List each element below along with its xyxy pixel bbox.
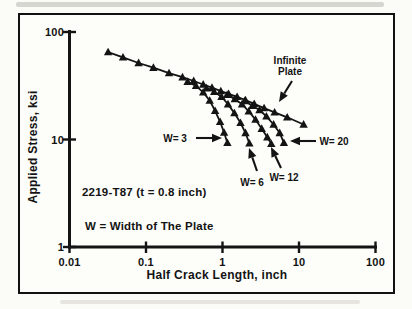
x-axis-title: Half Crack Length, inch [147, 268, 288, 282]
triangle-marker-w-6 [245, 139, 253, 147]
y-axis-title: Applied Stress, ksi [26, 90, 40, 203]
annotation-material-note: 2219-T87 (t = 0.8 inch) [82, 187, 206, 198]
annotation-w6: W= 6 [240, 177, 264, 188]
triangle-marker-w-3 [216, 117, 224, 125]
annotation-w20: W= 20 [319, 136, 348, 147]
arrow-line-w12 [275, 156, 281, 168]
triangle-marker-w-3 [223, 139, 231, 147]
triangle-marker-w-6 [241, 129, 249, 137]
triangle-marker-w-3 [211, 106, 219, 114]
triangle-marker-w-3 [220, 128, 228, 136]
x-tick-label-0_1: 0.1 [138, 256, 154, 268]
y-tick-label-10: 10 [51, 134, 64, 146]
x-tick-label-100: 100 [366, 256, 385, 268]
annotation-w3: W= 3 [163, 133, 187, 144]
arrow-head-icon-w6 [248, 148, 256, 159]
y-tick-label-1: 1 [58, 241, 64, 253]
arrow-line-w6 [252, 157, 257, 171]
scanned-figure: Applied Stress, ksi Half Crack Length, i… [0, 0, 412, 309]
arrow-line-infinite-plate [284, 81, 292, 93]
annotation-infinite-plate: InfinitePlate [274, 55, 307, 77]
x-tick-label-10: 10 [293, 256, 306, 268]
y-tick-label-100: 100 [45, 26, 64, 38]
triangle-marker-w-20 [280, 139, 288, 147]
x-tick-label-0_01: 0.01 [58, 256, 80, 268]
annotation-w12: W= 12 [269, 172, 298, 183]
arrow-head-icon-w20 [290, 137, 300, 145]
annotation-width-note: W = Width of The Plate [85, 221, 214, 232]
triangle-marker-infinite-plate [104, 48, 112, 56]
x-tick-label-1: 1 [219, 256, 225, 268]
